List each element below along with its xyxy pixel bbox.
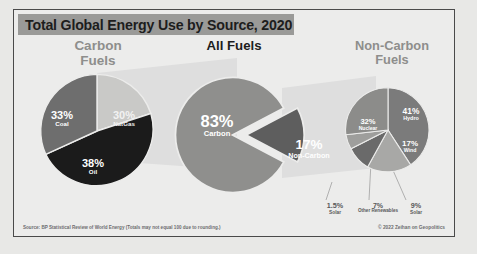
pie-chart-carbon-fuels xyxy=(38,72,156,190)
other-renewables-name: Other Renewables xyxy=(354,209,402,214)
callout-solar: 9% Solar xyxy=(396,202,436,215)
source-note: Source: BP Statistical Review of World E… xyxy=(23,225,221,230)
pie-chart-non-carbon-fuels xyxy=(344,86,432,174)
header-carbon-line1: Carbon xyxy=(74,38,121,53)
copyright-note: © 2022 Zeihan on Geopolitics xyxy=(378,225,445,230)
header-all-fuels: All Fuels xyxy=(174,39,294,53)
solar-total-percent: 1.5% xyxy=(314,202,356,210)
header-all-fuels-label: All Fuels xyxy=(207,38,262,53)
title-band: Total Global Energy Use by Source, 2020 xyxy=(18,14,294,35)
header-noncarbon-line1: Non-Carbon xyxy=(355,38,429,53)
callout-solar-total: 1.5% Solar xyxy=(314,202,356,215)
solar-name: Solar xyxy=(396,210,436,215)
pie-chart-all-fuels xyxy=(160,60,310,210)
header-non-carbon-fuels: Non-Carbon Fuels xyxy=(330,39,454,67)
header-noncarbon-line2: Fuels xyxy=(375,52,408,67)
infographic-frame: Total Global Energy Use by Source, 2020 … xyxy=(13,9,455,237)
page-title: Total Global Energy Use by Source, 2020 xyxy=(18,17,292,33)
solar-percent: 9% xyxy=(396,202,436,210)
solar-total-name: Solar xyxy=(314,210,356,215)
header-carbon-fuels: Carbon Fuels xyxy=(36,39,160,68)
header-carbon-line2: Fuels xyxy=(80,53,115,68)
callout-other-renewables: 7% Other Renewables xyxy=(354,202,402,214)
